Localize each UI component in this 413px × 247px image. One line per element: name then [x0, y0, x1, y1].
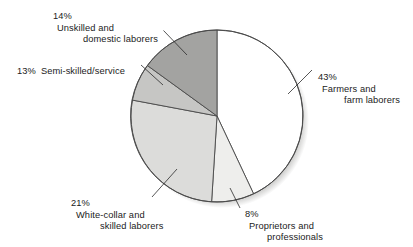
- pie-label-text-farmers-line1: Farmers and: [322, 84, 400, 96]
- pie-label-semi-skilled-service: 13%Semi-skilled/service: [17, 66, 125, 78]
- pie-label-text-proprietors-line2: professionals: [267, 232, 323, 244]
- pie-label-text-proprietors-line1: Proprietors and: [249, 221, 323, 233]
- pie-label-percent-white-collar: 21%: [71, 198, 90, 210]
- pie-label-text-white-collar-line2: skilled laborers: [100, 221, 164, 233]
- pie-label-text-unskilled-line2: domestic laborers: [83, 34, 158, 46]
- pie-label-percent-semi-skilled: 13%: [17, 66, 36, 78]
- pie-label-text-farmers-line2: farm laborers: [344, 95, 400, 107]
- pie-label-percent-proprietors: 8%: [245, 209, 259, 221]
- pie-label-unskilled-and-domestic-laborers: 14%Unskilled and domestic laborers: [53, 11, 158, 46]
- pie-label-white-collar-and-skilled-laborers: 21%White-collar and skilled laborers: [71, 198, 164, 233]
- pie-label-farmers-and-farm-laborers: 43%Farmers and farm laborers: [318, 72, 400, 107]
- pie-label-text-white-collar-line1: White-collar and: [76, 210, 164, 222]
- pie-chart-figure: 14%Unskilled and domestic laborers 13%Se…: [0, 0, 413, 247]
- pie-label-text-semi-skilled: Semi-skilled/service: [41, 66, 125, 78]
- pie-label-percent-unskilled: 14%: [53, 11, 72, 23]
- pie-label-percent-farmers: 43%: [318, 72, 337, 84]
- pie-label-proprietors-and-professionals: 8%Proprietors and professionals: [245, 209, 323, 244]
- pie-slice-white-collar-and-skilled-laborers[interactable]: [131, 100, 217, 202]
- pie-label-text-unskilled-line1: Unskilled and: [57, 23, 158, 35]
